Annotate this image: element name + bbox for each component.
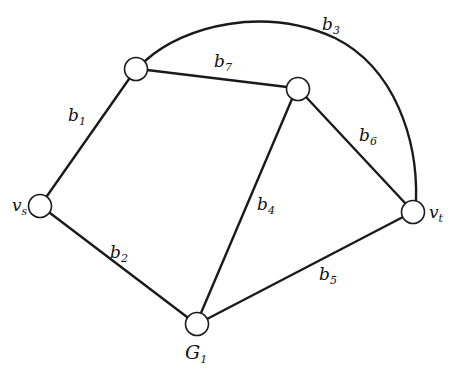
label-b6: b6 [359,125,377,148]
label-b4: b4 [257,194,275,217]
edge-b3 [145,22,416,201]
edge-b1 [47,79,129,196]
node-vs [29,195,52,218]
label-b2: b2 [110,242,128,265]
label-G1: G1 [185,341,207,366]
label-b3: b3 [322,14,340,37]
node-top-left [125,58,148,81]
graph-diagram: b1 b2 b3 b4 b5 b6 b7 vs vt G1 [0,0,455,368]
node-vt [402,201,425,224]
label-vt: vt [429,202,444,225]
label-b1: b1 [68,105,86,128]
nodes [29,58,425,336]
labels: b1 b2 b3 b4 b5 b6 b7 vs vt G1 [12,14,444,366]
edge-b2 [50,213,187,317]
node-top-right [287,78,310,101]
edge-b6 [306,97,405,203]
edge-b7 [147,70,287,87]
label-b7: b7 [214,51,232,74]
label-vs: vs [12,195,28,218]
label-b5: b5 [319,264,337,287]
node-G1 [186,313,209,336]
